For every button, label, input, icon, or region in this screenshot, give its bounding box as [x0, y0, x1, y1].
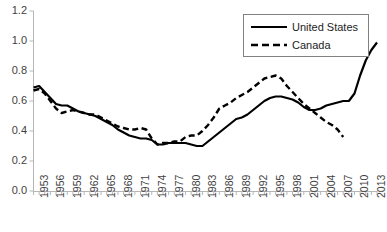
y-axis-tick-label: 0.4: [1, 124, 27, 136]
x-axis-tick-label: 1971: [139, 175, 151, 198]
x-axis-tick-label: 1962: [88, 175, 100, 198]
y-axis-ticks: [30, 11, 34, 191]
data-series-group: [34, 43, 378, 147]
series-line-canada: [34, 76, 344, 145]
x-axis-tick-label: 1992: [257, 175, 269, 198]
x-axis-tick-label: 1959: [71, 175, 83, 198]
x-axis-tick-label: 1998: [291, 175, 303, 198]
legend-label-united-states: United States: [292, 21, 358, 33]
y-axis-tick-label: 0.0: [1, 184, 27, 196]
x-axis-tick-label: 1968: [122, 175, 134, 198]
x-axis-tick-label: 1974: [156, 175, 168, 198]
x-axis-tick-label: 1956: [54, 175, 66, 198]
x-axis-tick-label: 1983: [206, 175, 218, 198]
x-axis-tick-label: 1977: [173, 175, 185, 198]
x-axis-tick-label: 1989: [240, 175, 252, 198]
legend-label-canada: Canada: [292, 39, 331, 51]
x-axis-tick-label: 2013: [375, 175, 387, 198]
x-axis-tick-label: 1965: [105, 175, 117, 198]
x-axis-tick-label: 2010: [358, 175, 370, 198]
series-line-united-states: [34, 43, 378, 147]
x-axis-tick-label: 1986: [223, 175, 235, 198]
x-axis-tick-label: 1995: [274, 175, 286, 198]
x-axis-tick-label: 1953: [38, 175, 50, 198]
y-axis-tick-label: 0.2: [1, 154, 27, 166]
x-axis-tick-label: 1980: [190, 175, 202, 198]
y-axis-tick-label: 1.0: [1, 34, 27, 46]
x-axis-tick-label: 2004: [325, 175, 337, 198]
x-axis-tick-label: 2007: [342, 175, 354, 198]
y-axis-tick-label: 1.2: [1, 4, 27, 16]
y-axis-tick-label: 0.6: [1, 94, 27, 106]
x-axis-tick-label: 2001: [308, 175, 320, 198]
y-axis-tick-label: 0.8: [1, 64, 27, 76]
